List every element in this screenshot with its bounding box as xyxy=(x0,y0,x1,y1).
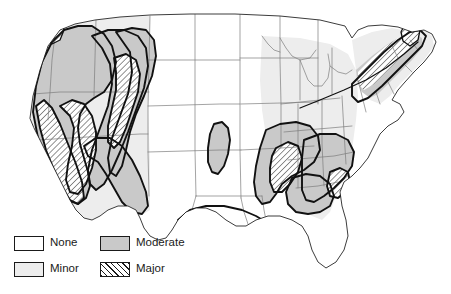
legend-label-minor: Minor xyxy=(50,263,79,275)
legend-item-none: None xyxy=(14,236,100,251)
legend-label-major: Major xyxy=(136,263,165,275)
legend-swatch-minor xyxy=(14,262,44,277)
legend-swatch-major xyxy=(100,262,130,277)
legend-label-none: None xyxy=(50,237,78,249)
map-legend: None Moderate Minor Major xyxy=(14,232,189,284)
legend-item-major: Major xyxy=(100,262,186,277)
legend-swatch-moderate xyxy=(100,236,130,251)
legend-row-2: Minor Major xyxy=(14,258,189,280)
legend-item-moderate: Moderate xyxy=(100,236,186,251)
legend-row-1: None Moderate xyxy=(14,232,189,254)
legend-label-moderate: Moderate xyxy=(136,237,185,249)
legend-item-minor: Minor xyxy=(14,262,100,277)
legend-swatch-none xyxy=(14,236,44,251)
